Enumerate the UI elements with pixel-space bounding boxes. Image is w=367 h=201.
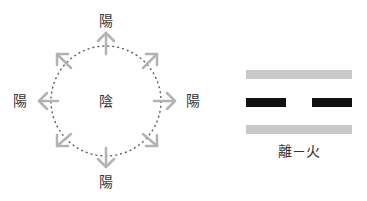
arrow-up-right-icon: [143, 54, 157, 68]
trigram-line-middle-broken-left: [246, 98, 286, 107]
center-label-yin: 陰: [99, 93, 113, 109]
arrow-down-right-icon: [143, 134, 157, 146]
outer-label-top: 陽: [99, 13, 113, 29]
trigram-line-bottom-solid: [246, 125, 352, 134]
arrow-right-icon: [154, 93, 175, 109]
arrow-down-left-icon: [57, 134, 71, 146]
arrow-down-icon: [98, 148, 114, 167]
trigram-line-top-solid: [246, 70, 352, 79]
outer-label-bottom: 陽: [99, 174, 113, 190]
arrow-up-icon: [98, 33, 114, 54]
trigram-line-middle-broken-right: [312, 98, 352, 107]
outer-label-left: 陽: [13, 93, 27, 109]
outer-label-right: 陽: [186, 93, 200, 109]
arrow-left-icon: [39, 93, 58, 109]
trigram-caption: 離－火: [278, 143, 320, 159]
